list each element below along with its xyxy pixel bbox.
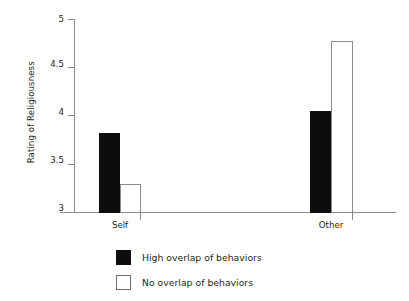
legend-item-no-overlap: No overlap of behaviors — [116, 270, 262, 295]
y-tick-label-5: 5 — [30, 15, 64, 24]
legend-swatch-hollow-icon — [116, 275, 131, 290]
legend-swatch-filled-icon — [116, 250, 131, 265]
legend-label-no-overlap: No overlap of behaviors — [142, 278, 253, 287]
y-tick-label-4: 4 — [30, 108, 64, 117]
bar-self-no-overlap — [120, 184, 141, 213]
x-tick-mark-other — [352, 212, 353, 220]
x-category-label-self: Self — [80, 221, 160, 230]
bar-other-high-overlap — [310, 111, 331, 213]
x-category-label-other: Other — [291, 221, 371, 230]
y-tick-label-3: 3 — [30, 204, 64, 213]
x-tick-mark-self — [140, 212, 141, 220]
legend-item-high-overlap: High overlap of behaviors — [116, 245, 262, 270]
bar-self-high-overlap — [99, 133, 120, 213]
y-axis-line — [74, 19, 75, 213]
y-tick-label-4-5: 4.5 — [30, 60, 64, 69]
y-tick-label-3-5: 3.5 — [30, 156, 64, 165]
legend: High overlap of behaviors No overlap of … — [116, 245, 262, 295]
legend-label-high-overlap: High overlap of behaviors — [142, 253, 262, 262]
bar-other-no-overlap — [331, 41, 353, 213]
bar-chart: Rating of Religiousness 5 4.5 4 3.5 3 Se… — [0, 0, 409, 301]
